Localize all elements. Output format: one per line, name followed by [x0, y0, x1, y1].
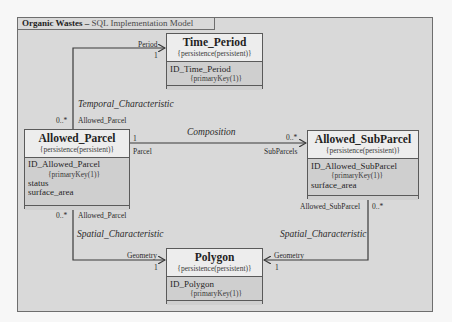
temporal-association-name: Temporal_Characteristic [78, 99, 174, 110]
composition-target-role: SubParcels [264, 147, 297, 156]
class-attributes: ID_Polygon {primaryKey(1)} [167, 277, 262, 301]
class-header: Allowed_Parcel {persistence(persistent)} [25, 130, 129, 158]
class-attributes: ID_Allowed_Parcel {primaryKey(1)} status… [25, 158, 129, 206]
class-time-period[interactable]: Time_Period {persistence(persistent)} ID… [166, 33, 263, 89]
class-name: Allowed_SubParcel [308, 133, 418, 146]
class-stereotype: {persistence(persistent)} [167, 49, 262, 59]
class-attributes: ID_Time_Period {primaryKey(1)} [167, 62, 262, 86]
class-header: Polygon {persistence(persistent)} [167, 249, 262, 277]
temporal-target-multiplicity: 1 [154, 51, 158, 60]
class-attributes: ID_Allowed_SubParcel {primaryKey(1)} sur… [308, 159, 418, 196]
temporal-target-role: Period [138, 40, 158, 49]
temporal-source-role: Allowed_Parcel [78, 116, 126, 125]
spatial-subparcel-source-multiplicity: 0..* [372, 202, 383, 211]
spatial-parcel-target-role: Geometry [127, 251, 157, 260]
class-stereotype: {persistence(persistent)} [308, 146, 418, 156]
class-allowed-subparcel[interactable]: Allowed_SubParcel {persistence(persisten… [307, 130, 419, 199]
spatial-parcel-source-role: Allowed_Parcel [78, 211, 126, 220]
class-name: Time_Period [167, 36, 262, 49]
class-name: Allowed_Parcel [25, 132, 129, 145]
class-allowed-parcel[interactable]: Allowed_Parcel {persistence(persistent)}… [24, 129, 130, 209]
composition-source-multiplicity: 1 [133, 134, 137, 143]
composition-target-multiplicity: 0..* [286, 133, 297, 142]
class-polygon[interactable]: Polygon {persistence(persistent)} ID_Pol… [166, 248, 263, 304]
attribute-name: ID_Polygon [170, 279, 259, 289]
spatial-parcel-target-multiplicity: 1 [154, 263, 158, 272]
spatial-subparcel-source-role: Allowed_SubParcel [300, 202, 360, 211]
attribute-name: ID_Allowed_Parcel [28, 160, 126, 170]
spatial-parcel-source-multiplicity: 0..* [56, 211, 67, 220]
attribute-constraint: {primaryKey(1)} [170, 289, 259, 298]
spatial-subparcel-association-name: Spatial_Characteristic [280, 229, 367, 240]
attribute-constraint: {primaryKey(1)} [311, 171, 415, 180]
temporal-source-multiplicity: 0..* [56, 116, 67, 125]
attribute-name: surface_area [311, 180, 415, 190]
class-name: Polygon [167, 251, 262, 264]
attribute-name: ID_Allowed_SubParcel [311, 161, 415, 171]
attribute-name: surface_area [28, 188, 126, 198]
class-operations [25, 206, 129, 210]
class-header: Allowed_SubParcel {persistence(persisten… [308, 131, 418, 159]
class-stereotype: {persistence(persistent)} [167, 264, 262, 274]
class-operations [308, 196, 418, 200]
class-operations [167, 301, 262, 305]
class-header: Time_Period {persistence(persistent)} [167, 34, 262, 62]
class-stereotype: {persistence(persistent)} [25, 145, 129, 155]
attribute-constraint: {primaryKey(1)} [170, 74, 259, 83]
spatial-subparcel-target-role: Geometry [274, 251, 304, 260]
composition-association-name: Composition [187, 127, 236, 138]
class-operations [167, 86, 262, 90]
spatial-parcel-association-name: Spatial_Characteristic [77, 229, 164, 240]
attribute-name: ID_Time_Period [170, 64, 259, 74]
composition-source-role: Parcel [133, 147, 152, 156]
spatial-subparcel-target-multiplicity: 1 [275, 263, 279, 272]
